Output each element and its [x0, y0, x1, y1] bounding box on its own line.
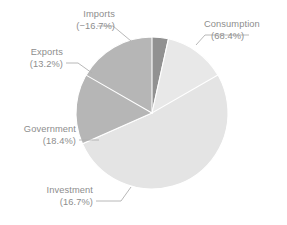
pie-slice-group	[76, 37, 228, 189]
pie-chart-figure: Consumption(68.4%)Investment(16.7%)Gover…	[0, 0, 287, 225]
slice-value-investment: (16.7%)	[60, 197, 93, 207]
slice-value-exports: (13.2%)	[30, 59, 63, 69]
leader-line-investment	[96, 187, 131, 201]
slice-label-investment: Investment	[47, 185, 94, 195]
slice-label-consumption: Consumption	[204, 19, 260, 29]
pie-chart-canvas: Consumption(68.4%)Investment(16.7%)Gover…	[0, 0, 287, 225]
slice-value-government: (18.4%)	[43, 136, 76, 146]
slice-label-government: Government	[24, 124, 76, 134]
slice-label-exports: Exports	[31, 47, 63, 57]
slice-value-imports: (−16.7%)	[76, 21, 115, 31]
slice-value-consumption: (68.4%)	[211, 31, 244, 41]
slice-label-imports: Imports	[83, 9, 115, 19]
